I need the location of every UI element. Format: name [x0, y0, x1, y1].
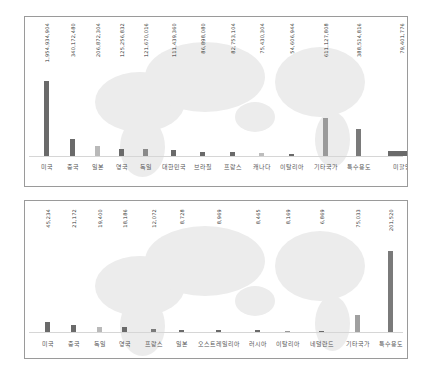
category-label: 특수용도 [347, 162, 371, 171]
bar[interactable] [97, 327, 102, 332]
category-label: 기타국가 [346, 339, 370, 348]
bar[interactable] [255, 330, 260, 332]
value-label: 45,234 [45, 209, 51, 228]
value-label: 21,172 [71, 209, 77, 228]
bar[interactable] [259, 153, 264, 156]
chart-panel-ipv6: 45,234미국21,172중국19,400독일18,186영국12,072프랑… [24, 200, 408, 359]
value-label: 18,186 [122, 209, 128, 228]
value-label: 12,072 [151, 209, 157, 228]
world-map-background [25, 17, 407, 186]
category-label: 미국 [41, 162, 53, 171]
category-label: 중국 [67, 162, 79, 171]
value-label: 8,969 [216, 209, 222, 224]
value-label: 1,954,934,904 [44, 23, 50, 62]
category-label: 영국 [116, 162, 128, 171]
value-label: 125,256,832 [119, 23, 125, 57]
bar[interactable] [230, 152, 235, 156]
bar[interactable] [323, 118, 328, 156]
value-label: 75,033 [355, 209, 361, 228]
bar[interactable] [356, 129, 361, 156]
value-label: 75,430,304 [259, 23, 265, 54]
value-label: 54,606,944 [289, 23, 295, 54]
category-label: 네덜란드 [310, 339, 334, 348]
bar[interactable] [216, 330, 221, 332]
category-label: 미할당 [393, 162, 409, 171]
bar[interactable] [143, 149, 148, 156]
category-label: 특수용도 [379, 339, 403, 348]
category-label: 브라질 [194, 162, 212, 171]
value-label: 388,514,816 [356, 23, 362, 57]
category-label: 기타국가 [314, 162, 338, 171]
value-label: 206,872,304 [95, 23, 101, 57]
bar[interactable] [71, 325, 76, 332]
world-map-background [25, 201, 407, 358]
bar[interactable] [179, 330, 184, 332]
category-label: 일본 [176, 339, 188, 348]
value-label: 6,869 [319, 209, 325, 224]
bar[interactable] [45, 322, 50, 332]
bar[interactable] [122, 327, 127, 332]
category-label: 미국 [42, 339, 54, 348]
bar[interactable] [388, 151, 408, 156]
category-label: 이탈리아 [280, 162, 304, 171]
category-label: 캐나다 [253, 162, 271, 171]
x-axis-baseline [29, 332, 403, 333]
category-label: 대한민국 [162, 162, 186, 171]
category-label: 이탈리아 [276, 339, 300, 348]
value-label: 19,400 [97, 209, 103, 228]
value-label: 79,401,776 [399, 23, 405, 54]
category-label: 프랑스 [224, 162, 242, 171]
bar[interactable] [151, 329, 156, 332]
value-label: 111,439,360 [171, 23, 177, 57]
value-label: 86,898,080 [200, 23, 206, 54]
value-label: 201,520 [388, 209, 394, 231]
bar[interactable] [171, 150, 176, 156]
category-label: 러시아 [249, 339, 267, 348]
value-label: 340,172,480 [70, 23, 76, 57]
bar[interactable] [200, 152, 205, 156]
category-label: 독일 [140, 162, 152, 171]
value-label: 82,753,104 [230, 23, 236, 54]
bar[interactable] [95, 146, 100, 156]
category-label: 영국 [119, 339, 131, 348]
bar[interactable] [388, 251, 393, 332]
value-label: 8,465 [255, 209, 261, 224]
chart-panel-ipv4: 1,954,934,904미국340,172,480중국206,872,304일… [24, 16, 408, 187]
bar[interactable] [119, 149, 124, 156]
bar[interactable] [70, 139, 75, 156]
category-label: 오스트레일리아 [198, 339, 240, 348]
bar[interactable] [289, 154, 294, 156]
value-label: 611,127,808 [323, 23, 329, 57]
bar[interactable] [44, 81, 49, 156]
category-label: 프랑스 [145, 339, 163, 348]
bar[interactable] [355, 315, 360, 332]
x-axis-baseline [29, 156, 403, 157]
category-label: 일본 [92, 162, 104, 171]
bar[interactable] [319, 331, 324, 332]
value-label: 8,728 [179, 209, 185, 224]
value-label: 8,169 [285, 209, 291, 224]
category-label: 중국 [68, 339, 80, 348]
bar[interactable] [285, 331, 290, 332]
category-label: 독일 [94, 339, 106, 348]
value-label: 121,670,016 [143, 23, 149, 57]
